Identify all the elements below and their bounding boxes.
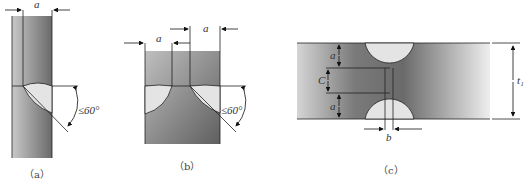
weld-joint-diagram: a ≤60° （a） a a ≤60° （b） <box>0 0 525 182</box>
dim-a-label: a <box>34 0 40 10</box>
caption-b: （b） <box>174 161 200 172</box>
thickness-label: t₁ <box>517 74 524 86</box>
figure-c: a C a b t₁ （c） <box>297 43 524 176</box>
bottom-a-label: a <box>330 100 336 112</box>
caption-a: （a） <box>24 169 50 180</box>
angle-label: ≤60° <box>78 104 100 116</box>
caption-c: （c） <box>378 165 404 176</box>
middle-c-label: C <box>318 74 326 86</box>
top-a-label: a <box>330 49 336 61</box>
figure-b: a a ≤60° （b） <box>124 22 246 172</box>
figure-a: a ≤60° （a） <box>5 0 100 180</box>
dim-a-right-label: a <box>203 22 209 34</box>
gap-b-label: b <box>386 131 392 143</box>
angle-label: ≤60° <box>221 104 243 116</box>
dim-a-left-label: a <box>156 32 162 44</box>
